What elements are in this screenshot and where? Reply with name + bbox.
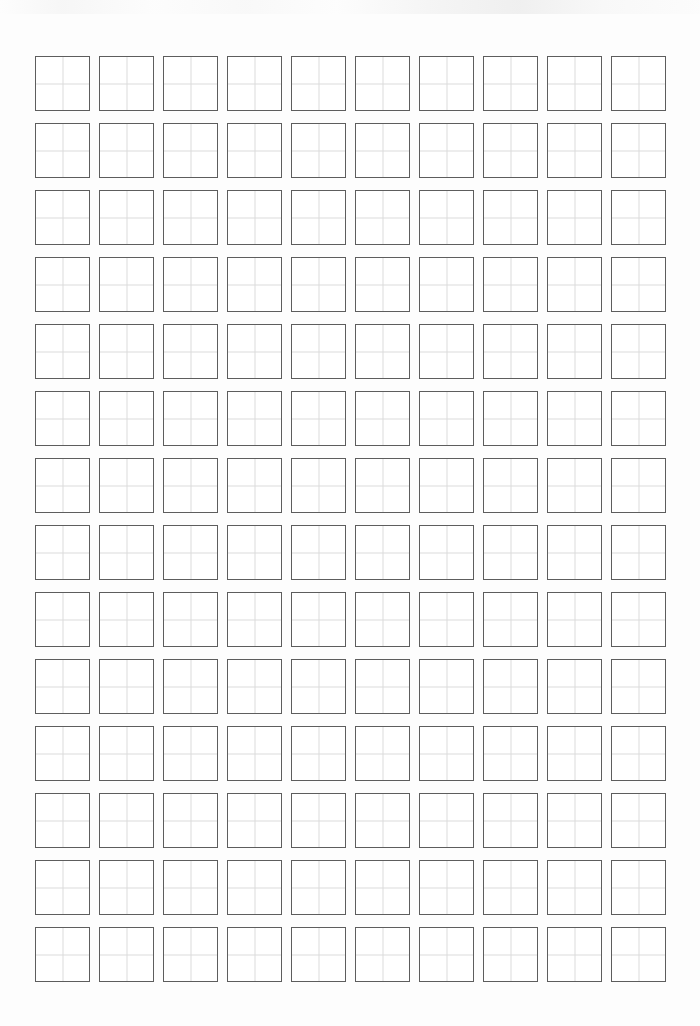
practice-cell[interactable] <box>611 324 666 379</box>
practice-cell[interactable] <box>419 391 474 446</box>
practice-cell[interactable] <box>611 927 666 982</box>
practice-cell[interactable] <box>163 659 218 714</box>
practice-cell[interactable] <box>547 726 602 781</box>
practice-cell[interactable] <box>547 56 602 111</box>
practice-cell[interactable] <box>611 391 666 446</box>
practice-cell[interactable] <box>611 525 666 580</box>
practice-cell[interactable] <box>355 592 410 647</box>
practice-cell[interactable] <box>163 927 218 982</box>
practice-cell[interactable] <box>355 123 410 178</box>
practice-cell[interactable] <box>163 190 218 245</box>
practice-cell[interactable] <box>611 860 666 915</box>
practice-cell[interactable] <box>419 324 474 379</box>
practice-cell[interactable] <box>483 123 538 178</box>
practice-cell[interactable] <box>483 793 538 848</box>
practice-cell[interactable] <box>35 927 90 982</box>
practice-cell[interactable] <box>611 793 666 848</box>
practice-cell[interactable] <box>483 324 538 379</box>
practice-cell[interactable] <box>35 726 90 781</box>
practice-cell[interactable] <box>35 324 90 379</box>
practice-cell[interactable] <box>291 190 346 245</box>
practice-cell[interactable] <box>163 793 218 848</box>
practice-cell[interactable] <box>547 592 602 647</box>
practice-cell[interactable] <box>419 793 474 848</box>
practice-cell[interactable] <box>483 659 538 714</box>
practice-cell[interactable] <box>227 257 282 312</box>
practice-cell[interactable] <box>99 190 154 245</box>
practice-cell[interactable] <box>355 793 410 848</box>
practice-cell[interactable] <box>35 525 90 580</box>
practice-cell[interactable] <box>227 391 282 446</box>
practice-cell[interactable] <box>483 927 538 982</box>
practice-cell[interactable] <box>227 190 282 245</box>
practice-cell[interactable] <box>99 56 154 111</box>
practice-cell[interactable] <box>99 927 154 982</box>
practice-cell[interactable] <box>291 391 346 446</box>
practice-cell[interactable] <box>547 793 602 848</box>
practice-cell[interactable] <box>291 860 346 915</box>
practice-cell[interactable] <box>611 726 666 781</box>
practice-cell[interactable] <box>483 525 538 580</box>
practice-cell[interactable] <box>419 592 474 647</box>
practice-cell[interactable] <box>99 592 154 647</box>
practice-cell[interactable] <box>355 659 410 714</box>
practice-cell[interactable] <box>291 726 346 781</box>
practice-cell[interactable] <box>355 860 410 915</box>
practice-cell[interactable] <box>547 391 602 446</box>
practice-cell[interactable] <box>611 190 666 245</box>
practice-cell[interactable] <box>291 525 346 580</box>
practice-cell[interactable] <box>227 56 282 111</box>
practice-cell[interactable] <box>291 458 346 513</box>
practice-cell[interactable] <box>611 592 666 647</box>
practice-cell[interactable] <box>99 659 154 714</box>
practice-cell[interactable] <box>163 525 218 580</box>
practice-cell[interactable] <box>483 726 538 781</box>
practice-cell[interactable] <box>355 525 410 580</box>
practice-cell[interactable] <box>419 659 474 714</box>
practice-cell[interactable] <box>291 324 346 379</box>
practice-cell[interactable] <box>419 56 474 111</box>
practice-cell[interactable] <box>99 324 154 379</box>
practice-cell[interactable] <box>163 592 218 647</box>
practice-cell[interactable] <box>291 592 346 647</box>
practice-cell[interactable] <box>419 190 474 245</box>
practice-cell[interactable] <box>99 257 154 312</box>
practice-cell[interactable] <box>99 525 154 580</box>
practice-cell[interactable] <box>611 458 666 513</box>
practice-cell[interactable] <box>99 793 154 848</box>
practice-cell[interactable] <box>547 860 602 915</box>
practice-cell[interactable] <box>611 123 666 178</box>
practice-cell[interactable] <box>483 190 538 245</box>
practice-cell[interactable] <box>35 56 90 111</box>
practice-cell[interactable] <box>483 458 538 513</box>
practice-cell[interactable] <box>35 257 90 312</box>
practice-cell[interactable] <box>611 659 666 714</box>
practice-cell[interactable] <box>355 391 410 446</box>
practice-cell[interactable] <box>355 927 410 982</box>
practice-cell[interactable] <box>99 391 154 446</box>
practice-cell[interactable] <box>35 391 90 446</box>
practice-cell[interactable] <box>291 793 346 848</box>
practice-cell[interactable] <box>163 56 218 111</box>
practice-cell[interactable] <box>483 257 538 312</box>
practice-cell[interactable] <box>163 860 218 915</box>
practice-cell[interactable] <box>35 123 90 178</box>
practice-cell[interactable] <box>355 726 410 781</box>
practice-cell[interactable] <box>291 927 346 982</box>
practice-cell[interactable] <box>99 458 154 513</box>
practice-cell[interactable] <box>35 190 90 245</box>
practice-cell[interactable] <box>483 56 538 111</box>
practice-cell[interactable] <box>291 659 346 714</box>
practice-cell[interactable] <box>99 123 154 178</box>
practice-cell[interactable] <box>163 257 218 312</box>
practice-cell[interactable] <box>291 56 346 111</box>
practice-cell[interactable] <box>227 793 282 848</box>
practice-cell[interactable] <box>419 726 474 781</box>
practice-cell[interactable] <box>35 793 90 848</box>
practice-cell[interactable] <box>611 257 666 312</box>
practice-cell[interactable] <box>483 860 538 915</box>
practice-cell[interactable] <box>35 659 90 714</box>
practice-cell[interactable] <box>547 257 602 312</box>
practice-cell[interactable] <box>163 726 218 781</box>
practice-cell[interactable] <box>227 458 282 513</box>
